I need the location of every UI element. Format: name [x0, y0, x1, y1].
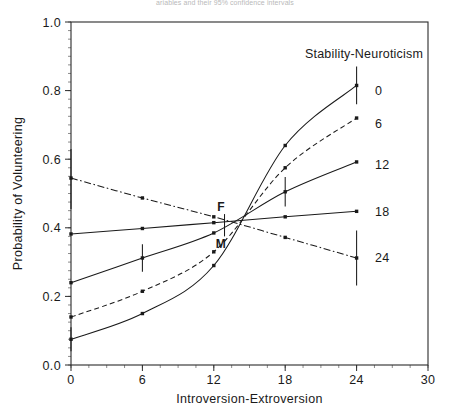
female-label: F [217, 200, 225, 214]
chart-canvas: FM 0612182430 0.00.20.40.60.81.0 0612182… [0, 0, 450, 407]
x-tick-label: 24 [349, 373, 364, 387]
series-line-0 [71, 85, 357, 339]
data-point-12-x24 [355, 160, 358, 163]
x-tick-label-group: 0612182430 [67, 373, 435, 387]
y-tick-label: 0.2 [42, 290, 61, 304]
y-axis-title: Probability of Volunteering [11, 117, 25, 270]
minor-tick-group [68, 22, 428, 368]
data-point-18-x24 [355, 210, 358, 213]
legend-label-0: 0 [375, 84, 382, 98]
y-tick-label: 0.4 [42, 221, 61, 235]
figure-top-caption: ariables and their 95% confidence interv… [0, 0, 450, 7]
data-point-0-x6 [141, 312, 144, 315]
y-tick-label: 1.0 [42, 16, 61, 30]
major-tick-group [65, 22, 428, 371]
figure-container: ariables and their 95% confidence interv… [0, 0, 450, 407]
data-series-group [69, 67, 358, 352]
legend-label-24: 24 [375, 251, 390, 265]
data-point-24-x12 [212, 215, 215, 218]
legend-title: Stability-Neuroticism [305, 47, 423, 61]
data-point-18-x6 [141, 227, 144, 230]
data-point-6-x0 [69, 315, 72, 318]
data-point-0-x12 [212, 264, 215, 267]
data-point-6-x24 [355, 116, 358, 119]
y-tick-label: 0.6 [42, 153, 61, 167]
y-tick-label-group: 0.00.20.40.60.81.0 [42, 16, 61, 373]
x-tick-label: 6 [139, 373, 146, 387]
data-point-24-x6 [141, 196, 144, 199]
data-point-6-x18 [284, 166, 287, 169]
data-point-0-x18 [284, 144, 287, 147]
x-tick-label: 0 [67, 373, 74, 387]
x-tick-label: 30 [421, 373, 436, 387]
x-axis-title: Introversion-Extroversion [176, 392, 322, 406]
legend-label-12: 12 [375, 158, 390, 172]
series-0 [69, 67, 358, 352]
annotation-group: FM [216, 200, 226, 252]
legend-label-6: 6 [375, 117, 382, 131]
data-point-18-x12 [212, 221, 215, 224]
data-point-24-x18 [284, 236, 287, 239]
male-label: M [216, 237, 226, 251]
y-tick-label: 0.0 [42, 359, 61, 373]
data-point-12-x12 [212, 231, 215, 234]
x-tick-label: 12 [206, 373, 221, 387]
x-tick-label: 18 [278, 373, 293, 387]
y-tick-label: 0.8 [42, 84, 61, 98]
data-point-18-x0 [69, 232, 72, 235]
data-point-18-x18 [284, 215, 287, 218]
data-point-12-x0 [69, 281, 72, 284]
data-point-6-x6 [141, 290, 144, 293]
legend-group: 06121824 [375, 84, 390, 265]
legend-label-18: 18 [375, 205, 390, 219]
